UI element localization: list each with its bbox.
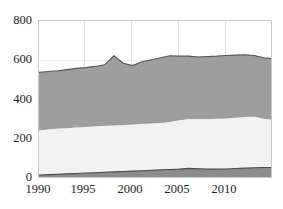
x-tick-label-2005: 2005 [156,182,198,196]
y-axis-tick-labels: 800 600 400 200 0 [0,0,36,209]
y-tick-label-600: 600 [0,53,32,66]
x-tick-label-2000: 2000 [109,182,151,196]
area-chart: 800 600 400 200 0 [0,0,283,209]
y-tick-label-800: 800 [0,14,32,27]
plot-area [38,20,272,178]
y-tick-label-200: 200 [0,132,32,145]
x-tick-label-2010: 2010 [203,182,245,196]
x-tick-label-1995: 1995 [62,182,104,196]
stacked-area-series [39,21,272,178]
x-tick-label-1990: 1990 [17,182,59,196]
y-tick-label-400: 400 [0,93,32,106]
